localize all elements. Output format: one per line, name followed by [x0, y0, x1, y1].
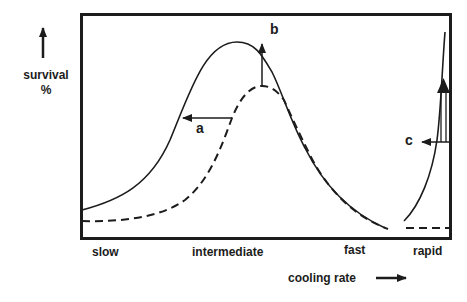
- solid-survival-curve: [82, 42, 385, 228]
- x-axis-title: cooling rate: [288, 272, 356, 284]
- x-tick-rapid: rapid: [413, 245, 442, 257]
- x-tick-slow: slow: [92, 246, 119, 258]
- x-tick-intermediate: intermediate: [192, 246, 263, 258]
- arrow-c-up-head-icon: [437, 78, 450, 93]
- y-axis-label: survival %: [16, 68, 76, 98]
- rapid-solid-curve: [404, 32, 445, 221]
- annotation-c: c: [405, 133, 413, 147]
- y-axis-label-line2: %: [16, 83, 76, 98]
- annotation-a: a: [196, 121, 204, 135]
- x-tick-fast: fast: [344, 244, 365, 256]
- plot-frame: [82, 15, 451, 239]
- survival-vs-cooling-rate-diagram: survival % a b c slow intermediate fast …: [0, 0, 467, 302]
- annotation-b: b: [270, 22, 279, 36]
- dashed-survival-curve: [82, 86, 388, 229]
- y-axis-label-line1: survival: [16, 68, 76, 83]
